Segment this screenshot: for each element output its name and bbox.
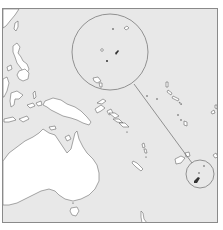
inset-islet xyxy=(112,28,114,30)
philippines xyxy=(13,43,29,73)
islet xyxy=(146,95,147,96)
tongatapu xyxy=(194,177,200,183)
cape-york-islands xyxy=(65,135,71,141)
wallis-futuna xyxy=(184,121,187,126)
solomon-islands xyxy=(113,119,123,123)
borneo xyxy=(3,77,9,97)
samoa xyxy=(215,105,217,109)
moluccas xyxy=(33,91,36,99)
tuvalu-islands xyxy=(167,90,172,95)
inset-island-vavau xyxy=(124,26,129,30)
lesser-sunda-islands xyxy=(4,117,16,122)
inset-island-eua xyxy=(99,83,102,87)
locator-map xyxy=(3,9,218,223)
vanuatu xyxy=(142,143,145,148)
island-right-edge xyxy=(213,153,218,158)
tuvalu-islands xyxy=(172,96,179,101)
fiji xyxy=(175,156,185,164)
islet xyxy=(145,156,146,157)
solomon-islands xyxy=(109,113,119,118)
enlarged-circle xyxy=(72,14,148,90)
new-ireland xyxy=(97,99,106,104)
tasmania xyxy=(70,207,79,216)
vanuatu xyxy=(144,149,147,153)
new-guinea xyxy=(43,98,91,125)
new-britain xyxy=(95,105,105,113)
inset-island-haapai xyxy=(101,49,104,52)
tonga-islet xyxy=(203,165,204,166)
philippines-small-island xyxy=(7,65,12,71)
indonesia-island xyxy=(36,101,42,106)
tonga-islet xyxy=(198,172,199,173)
indonesia-island xyxy=(27,103,35,108)
tuvalu-islands xyxy=(166,82,168,87)
australia-north-coast xyxy=(49,126,56,130)
samoa xyxy=(211,110,215,114)
inset-island-haapai-group xyxy=(115,50,119,55)
new-caledonia xyxy=(132,161,143,171)
islet xyxy=(180,119,181,120)
inset-island-tongatapu xyxy=(93,77,101,83)
source-circle xyxy=(186,160,214,188)
sulawesi xyxy=(10,91,23,107)
new-zealand xyxy=(141,211,147,223)
map-frame xyxy=(2,8,218,223)
islet xyxy=(126,131,127,132)
islet xyxy=(72,202,73,203)
mindanao xyxy=(17,69,29,81)
islet xyxy=(156,98,157,99)
leader-line xyxy=(134,84,192,163)
tuvalu-islands xyxy=(179,102,182,105)
solomon-islands xyxy=(119,123,129,127)
taiwan-island xyxy=(14,21,18,31)
timor xyxy=(19,116,29,122)
islet xyxy=(177,114,178,115)
australia xyxy=(3,129,99,205)
inset-islet xyxy=(106,60,108,62)
